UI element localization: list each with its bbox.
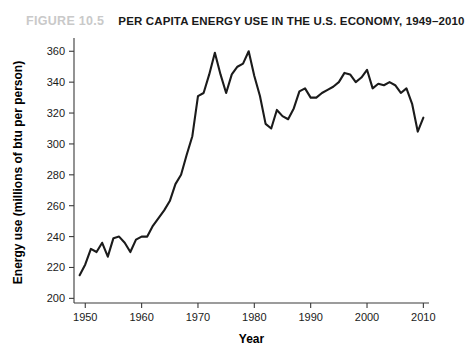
figure-header: FIGURE 10.5 PER CAPITA ENERGY USE IN THE…: [0, 10, 443, 32]
page-title: PER CAPITA ENERGY USE IN THE U.S. ECONOM…: [118, 15, 464, 27]
x-axis-title: Year: [239, 332, 265, 346]
y-tick-label: 220: [47, 261, 65, 273]
y-tick-label: 280: [47, 169, 65, 181]
line-chart: 200220240260280300320340360 195019601970…: [0, 32, 443, 358]
y-tick-label: 260: [47, 200, 65, 212]
chart-container: 200220240260280300320340360 195019601970…: [0, 32, 443, 358]
y-tick-label: 240: [47, 231, 65, 243]
x-tick-label: 1970: [186, 311, 210, 323]
x-tick-label: 2010: [411, 311, 435, 323]
y-tick-label: 300: [47, 138, 65, 150]
x-tick-label: 1980: [242, 311, 266, 323]
y-axis-title: Energy use (millions of btu per person): [11, 61, 25, 284]
figure-number-label: FIGURE 10.5: [26, 14, 104, 28]
y-axis: 200220240260280300320340360: [47, 38, 74, 304]
x-tick-label: 1950: [73, 311, 97, 323]
y-tick-label: 200: [47, 292, 65, 304]
energy-use-series: [80, 51, 424, 275]
y-tick-group: 200220240260280300320340360: [47, 45, 74, 304]
x-axis: 1950196019701980199020002010: [73, 303, 436, 323]
y-tick-label: 320: [47, 107, 65, 119]
x-tick-label: 2000: [355, 311, 379, 323]
y-tick-label: 340: [47, 76, 65, 88]
y-tick-label: 360: [47, 45, 65, 57]
x-tick-group: 1950196019701980199020002010: [73, 303, 436, 323]
x-tick-label: 1960: [129, 311, 153, 323]
x-tick-label: 1990: [298, 311, 322, 323]
